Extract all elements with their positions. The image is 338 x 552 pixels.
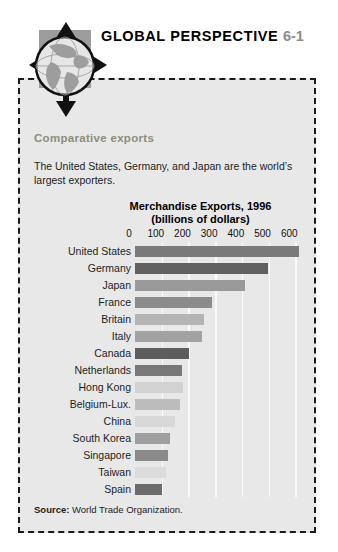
chart-bar xyxy=(135,365,182,376)
chart-bar-track xyxy=(135,365,182,376)
chart-row: China xyxy=(34,413,306,430)
chart-bar-track xyxy=(135,433,170,444)
chart-category-label: Taiwan xyxy=(34,464,131,481)
chart-row: Canada xyxy=(34,345,306,362)
chart-row: Singapore xyxy=(34,447,306,464)
chart-title-main: Merchandise Exports, 1996 xyxy=(103,200,298,213)
chart-bar-track xyxy=(135,331,202,342)
chart-row: Britain xyxy=(34,311,306,328)
globe-icon xyxy=(29,22,107,117)
chart-row: Belgium-Lux. xyxy=(34,396,306,413)
chart-bar xyxy=(135,382,183,393)
source-text: World Trade Organization. xyxy=(72,504,183,515)
chart-category-label: France xyxy=(34,294,131,311)
chart-row: United States xyxy=(34,243,306,260)
chart-category-label: China xyxy=(34,413,131,430)
panel-description: The United States, Germany, and Japan ar… xyxy=(34,159,306,187)
chart-category-label: Britain xyxy=(34,311,131,328)
page-title-text: GLOBAL PERSPECTIVE xyxy=(101,28,278,44)
page-title: GLOBAL PERSPECTIVE 6-1 xyxy=(101,28,304,44)
source-label: Source: xyxy=(34,504,69,515)
chart-category-label: Belgium-Lux. xyxy=(34,396,131,413)
x-tick-label: 500 xyxy=(254,228,271,239)
x-tick-label: 600 xyxy=(281,228,298,239)
chart-row: Italy xyxy=(34,328,306,345)
chart-category-label: United States xyxy=(34,243,131,260)
chart-row: France xyxy=(34,294,306,311)
chart-title-units: (billions of dollars) xyxy=(103,213,298,226)
x-tick-label: 0 xyxy=(126,228,132,239)
chart-bar xyxy=(135,297,212,308)
chart-bar xyxy=(135,246,299,257)
chart-row: South Korea xyxy=(34,430,306,447)
chart-category-label: Singapore xyxy=(34,447,131,464)
chart-category-label: South Korea xyxy=(34,430,131,447)
chart-bar xyxy=(135,484,162,495)
chart-category-label: Netherlands xyxy=(34,362,131,379)
chart-bar xyxy=(135,450,168,461)
chart-bar-track xyxy=(135,348,189,359)
exhibit-number: 6-1 xyxy=(283,28,304,44)
chart-row: Spain xyxy=(34,481,306,498)
chart-bar xyxy=(135,467,166,478)
chart-row: Hong Kong xyxy=(34,379,306,396)
x-tick-label: 100 xyxy=(147,228,164,239)
source-note: Source: World Trade Organization. xyxy=(34,504,183,515)
x-tick-label: 200 xyxy=(174,228,191,239)
chart-bar xyxy=(135,263,268,274)
chart-bar-track xyxy=(135,314,204,325)
chart-bar-track xyxy=(135,246,299,257)
chart-category-label: Hong Kong xyxy=(34,379,131,396)
chart-bar-track xyxy=(135,382,183,393)
chart-row: Japan xyxy=(34,277,306,294)
x-tick-label: 400 xyxy=(228,228,245,239)
x-tick-label: 300 xyxy=(201,228,218,239)
chart-bar-track xyxy=(135,280,245,291)
chart-plot-area: United StatesGermanyJapanFranceBritainIt… xyxy=(34,243,306,497)
chart-bar xyxy=(135,416,175,427)
chart-bar-track xyxy=(135,484,162,495)
chart-bar xyxy=(135,399,180,410)
chart-category-label: Japan xyxy=(34,277,131,294)
chart-bar xyxy=(135,314,204,325)
exhibit-panel: Comparative exports The United States, G… xyxy=(18,78,316,533)
chart-bar xyxy=(135,433,170,444)
chart-bar-track xyxy=(135,263,268,274)
chart-row: Netherlands xyxy=(34,362,306,379)
chart-row: Germany xyxy=(34,260,306,277)
chart-title: Merchandise Exports, 1996 (billions of d… xyxy=(103,200,298,225)
chart-bar-track xyxy=(135,297,212,308)
chart-category-label: Spain xyxy=(34,481,131,498)
chart-bar-track xyxy=(135,416,175,427)
chart-category-label: Germany xyxy=(34,260,131,277)
chart-bar-track xyxy=(135,467,166,478)
chart-bar xyxy=(135,348,189,359)
chart-row: Taiwan xyxy=(34,464,306,481)
chart-x-axis: 0100200300400500600 xyxy=(125,228,305,241)
chart-category-label: Canada xyxy=(34,345,131,362)
page-header: GLOBAL PERSPECTIVE 6-1 xyxy=(0,0,338,80)
chart-bar xyxy=(135,280,245,291)
chart-category-label: Italy xyxy=(34,328,131,345)
chart-bar-track xyxy=(135,450,168,461)
chart-bar-track xyxy=(135,399,180,410)
chart-bar xyxy=(135,331,202,342)
panel-subheading: Comparative exports xyxy=(34,132,154,144)
